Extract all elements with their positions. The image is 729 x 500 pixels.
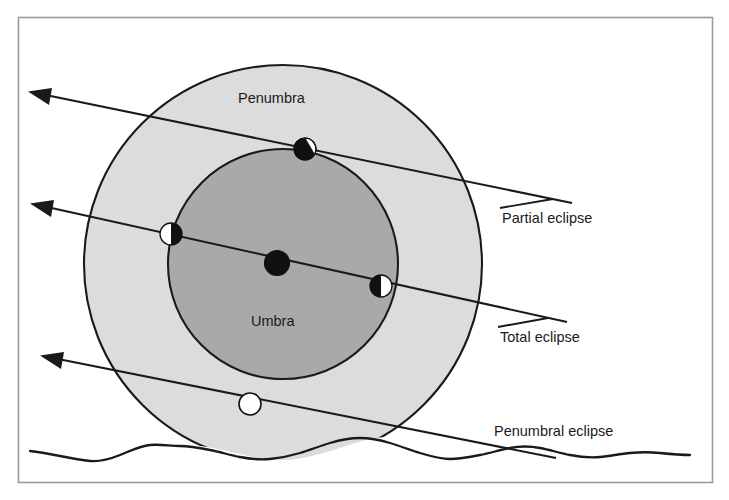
total-eclipse-label: Total eclipse [500, 329, 580, 345]
diagram-page: Penumbra Umbra Partial eclipse [0, 0, 729, 500]
penumbral-eclipse-label: Penumbral eclipse [494, 423, 613, 439]
moon-fully-eclipsed [265, 251, 290, 276]
eclipse-diagram: Penumbra Umbra Partial eclipse [0, 0, 729, 500]
penumbra-label: Penumbra [238, 90, 306, 106]
umbra-label: Umbra [251, 313, 295, 329]
moon-partially-eclipsed [294, 138, 316, 160]
moon-entering-umbra [160, 223, 182, 245]
moon-in-penumbra [239, 393, 261, 415]
moon-exiting-umbra [370, 275, 392, 297]
partial-eclipse-label: Partial eclipse [502, 210, 592, 226]
